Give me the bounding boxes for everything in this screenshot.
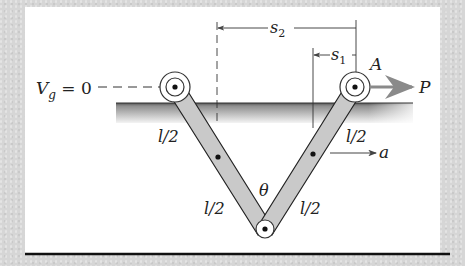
- left-bar-center-dot: [215, 154, 220, 159]
- left-lower-length-label: l/2: [204, 199, 225, 218]
- left-pin: [160, 72, 190, 102]
- linkage-diagram: Vg = 0 s2 s1 A P a θ l/2 l/2 l/2 l/2: [0, 0, 465, 266]
- right-pin-A: [340, 72, 370, 102]
- datum-label: Vg = 0: [36, 78, 92, 102]
- angle-theta-label: θ: [259, 181, 269, 200]
- left-upper-length-label: l/2: [158, 127, 179, 146]
- right-bar-center-dot: [310, 151, 315, 156]
- right-upper-length-label: l/2: [346, 127, 367, 146]
- bottom-pin: [256, 220, 274, 238]
- s2-label: s2: [270, 18, 285, 40]
- accel-a-label: a: [379, 142, 389, 162]
- point-A-label: A: [368, 54, 382, 74]
- ground-surface: [116, 103, 413, 123]
- s1-label: s1: [331, 45, 346, 67]
- force-P-label: P: [418, 77, 431, 97]
- right-lower-length-label: l/2: [300, 199, 321, 218]
